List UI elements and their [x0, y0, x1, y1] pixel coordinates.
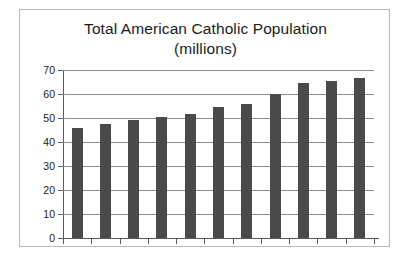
x-tick-mark: [289, 239, 290, 244]
bar: [100, 124, 111, 238]
x-tick-mark: [374, 239, 375, 244]
x-tick-mark: [204, 239, 205, 244]
y-axis-tick-label: 30: [43, 160, 55, 172]
bar: [128, 120, 139, 238]
x-tick-mark: [233, 239, 234, 244]
y-axis-tick-label: 70: [43, 64, 55, 76]
y-tick-mark: [58, 94, 63, 95]
y-tick-mark: [58, 190, 63, 191]
chart-title-line-2: (millions): [20, 39, 391, 59]
x-tick-mark: [176, 239, 177, 244]
y-tick-mark: [58, 118, 63, 119]
x-tick-mark: [261, 239, 262, 244]
y-tick-mark: [58, 142, 63, 143]
y-tick-mark: [58, 166, 63, 167]
chart-container: Total American Catholic Population (mill…: [19, 9, 390, 247]
x-tick-mark: [317, 239, 318, 244]
bar: [354, 78, 365, 238]
plot-area: 010203040506070: [63, 70, 374, 238]
y-axis-tick-label: 10: [43, 208, 55, 220]
x-axis-line: [58, 238, 379, 239]
bar: [156, 117, 167, 238]
y-tick-mark: [58, 214, 63, 215]
y-axis-tick-label: 20: [43, 184, 55, 196]
bar: [326, 81, 337, 238]
bar: [185, 114, 196, 238]
bar: [72, 128, 83, 238]
bar: [241, 104, 252, 238]
y-axis-tick-label: 0: [49, 232, 55, 244]
chart-title-line-1: Total American Catholic Population: [20, 19, 391, 39]
y-tick-mark: [58, 70, 63, 71]
x-tick-mark: [63, 239, 64, 244]
gridline: [63, 70, 374, 71]
y-axis-tick-label: 60: [43, 88, 55, 100]
bar: [213, 107, 224, 238]
bar: [270, 94, 281, 238]
x-tick-mark: [91, 239, 92, 244]
y-axis-tick-label: 40: [43, 136, 55, 148]
x-tick-mark: [148, 239, 149, 244]
x-tick-mark: [120, 239, 121, 244]
x-tick-mark: [346, 239, 347, 244]
chart-title: Total American Catholic Population (mill…: [20, 19, 391, 59]
y-axis-tick-label: 50: [43, 112, 55, 124]
bar: [298, 83, 309, 238]
